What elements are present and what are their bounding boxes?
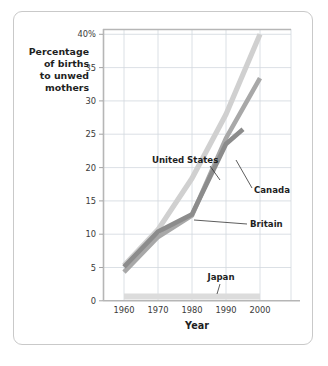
x-tick-labels: 1960 1970 1980 1990 2000 — [113, 305, 270, 315]
y-tick-label: 5 — [91, 263, 96, 273]
y-tick-label: 20 — [85, 163, 96, 173]
y-axis-title-line: Percentage — [29, 46, 89, 57]
y-tick-label: 10 — [85, 229, 96, 239]
figure-container: 40% 35 30 25 20 15 10 5 0 1960 1970 1980… — [13, 11, 313, 345]
series-line-japan — [124, 294, 260, 300]
x-tick-label: 1960 — [113, 305, 134, 315]
x-tick-label: 2000 — [249, 305, 270, 315]
y-tick-label: 15 — [85, 196, 96, 206]
x-tick-label: 1980 — [181, 305, 202, 315]
y-axis-title-line: of births — [44, 58, 89, 69]
y-tick-label: 0 — [91, 296, 96, 306]
series-annotation-japan: Japan — [206, 272, 234, 282]
x-tick-label: 1990 — [215, 305, 236, 315]
y-tick-label: 30 — [85, 96, 96, 106]
y-tick-marks — [99, 34, 103, 301]
y-axis-title-line: mothers — [45, 82, 89, 93]
line-chart: 40% 35 30 25 20 15 10 5 0 1960 1970 1980… — [14, 12, 312, 344]
y-axis-title-line: to unwed — [40, 70, 89, 81]
series-annotation-united-states: United States — [152, 155, 218, 165]
y-tick-label: 40% — [78, 29, 97, 39]
x-axis-title: Year — [184, 320, 209, 331]
y-axis-title: Percentage of births to unwed mothers — [29, 46, 90, 93]
series-annotation-canada: Canada — [254, 185, 290, 195]
x-tick-label: 1970 — [147, 305, 168, 315]
series-annotation-britain: Britain — [250, 219, 283, 229]
y-tick-label: 25 — [85, 129, 96, 139]
